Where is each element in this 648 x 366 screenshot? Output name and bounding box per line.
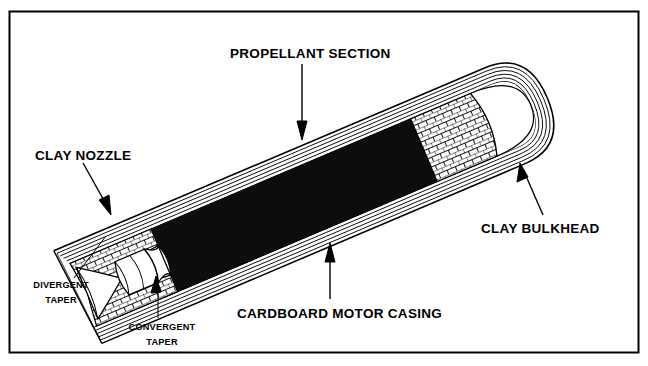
rocket-motor-cutaway-diagram: PROPELLANT SECTION CLAY NOZZLE CLAY BULK… <box>0 0 648 366</box>
arrowhead-clay-nozzle <box>99 195 111 215</box>
diagram-root: PROPELLANT SECTION CLAY NOZZLE CLAY BULK… <box>0 0 648 366</box>
arrowhead-propellant-section <box>297 121 307 140</box>
label-clay-nozzle: CLAY NOZZLE <box>35 148 131 163</box>
motor-assembly <box>54 50 568 347</box>
label-divergent-taper-line2: TAPER <box>45 295 77 305</box>
label-convergent-taper-line2: TAPER <box>146 337 178 347</box>
leader-clay-bulkhead <box>526 176 543 215</box>
label-propellant-section: PROPELLANT SECTION <box>230 46 391 61</box>
label-divergent-taper-line1: DIVERGENT <box>33 280 89 290</box>
label-convergent-taper-line1: CONVERGENT <box>129 322 196 332</box>
label-cardboard-motor-casing: CARDBOARD MOTOR CASING <box>237 306 442 321</box>
label-clay-bulkhead: CLAY BULKHEAD <box>481 221 600 236</box>
